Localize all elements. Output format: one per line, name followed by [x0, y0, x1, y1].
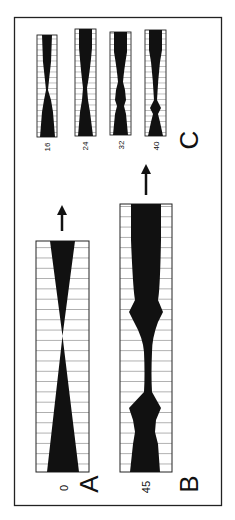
- panel-a: 0 A: [36, 205, 104, 493]
- panel-a-arrow-icon: [57, 205, 67, 231]
- panel-a-label: A: [74, 475, 104, 493]
- panel-b: 45 B: [120, 164, 204, 493]
- panel-c-value-label-16: 16: [43, 142, 52, 151]
- panel-c-strip-16: 16: [37, 35, 57, 151]
- panel-c-value-label-40: 40: [152, 141, 161, 150]
- panel-b-label: B: [174, 475, 204, 492]
- panel-a-value-label: 0: [58, 485, 70, 491]
- panel-c-value-label-24: 24: [81, 141, 90, 150]
- panel-c-value-label-32: 32: [117, 140, 126, 149]
- panel-b-arrow-icon: [141, 164, 151, 195]
- panel-c-strip-32: 32: [110, 32, 131, 149]
- panel-c-strip-40: 40: [145, 30, 166, 150]
- figure-canvas: 0 A 45 B 16 24: [0, 0, 235, 520]
- panel-c-strip-24: 24: [75, 29, 96, 150]
- panel-b-value-label: 45: [140, 481, 152, 493]
- panel-c-label: C: [174, 131, 204, 150]
- panel-c: 16 24 32 40 C: [37, 29, 204, 151]
